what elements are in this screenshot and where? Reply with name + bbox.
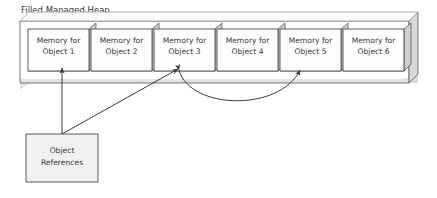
- memory-cell-4-line1: Memory for: [226, 36, 271, 45]
- memory-cell-2-line2: Object 2: [106, 47, 138, 56]
- memory-cell-5-line2: Object 5: [295, 47, 327, 56]
- memory-cell-2-line1: Memory for: [100, 36, 145, 45]
- object-references-box[interactable]: Object References: [26, 134, 98, 182]
- memory-cell-4[interactable]: Memory for Object 4: [217, 23, 285, 71]
- memory-cell-2[interactable]: Memory for Object 2: [91, 23, 159, 71]
- memory-cell-6-line2: Object 6: [358, 47, 390, 56]
- object-references-line1: Object: [50, 146, 75, 155]
- memory-cell-6-line1: Memory for: [352, 36, 397, 45]
- memory-cell-3-line1: Memory for: [163, 36, 208, 45]
- memory-cell-5-line1: Memory for: [289, 36, 334, 45]
- memory-cell-3-line2: Object 3: [169, 47, 201, 56]
- memory-cell-4-line2: Object 4: [232, 47, 264, 56]
- memory-cell-5[interactable]: Memory for Object 5: [280, 23, 348, 71]
- memory-cell-6-side-face: [404, 23, 411, 71]
- memory-cell-1[interactable]: Memory for Object 1: [28, 23, 96, 71]
- memory-cell-3[interactable]: Memory for Object 3: [154, 23, 222, 71]
- object-references-line2: References: [41, 158, 83, 167]
- memory-cell-6[interactable]: Memory for Object 6: [343, 23, 411, 71]
- heap-top-face: [20, 12, 418, 21]
- memory-cell-1-line2: Object 1: [43, 47, 75, 56]
- diagram-canvas: Filled Managed Heap Memory for Object 1 …: [0, 0, 437, 198]
- memory-cell-1-line1: Memory for: [37, 36, 82, 45]
- heap-diagram: Filled Managed Heap Memory for Object 1 …: [0, 0, 437, 198]
